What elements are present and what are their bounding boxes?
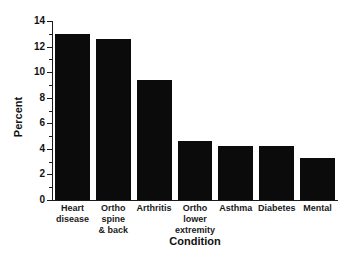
y-tick-label-wrap: 4 — [0, 144, 45, 154]
y-tick-label: 4 — [21, 144, 45, 154]
bar — [55, 34, 90, 200]
y-tick-label-wrap: 8 — [0, 93, 45, 103]
x-tick-label: Arthritis — [134, 203, 175, 214]
x-tick-label: Mental — [297, 203, 338, 214]
x-tick-label-line: Arthritis — [134, 203, 175, 214]
y-tick-label-wrap: 6 — [0, 118, 45, 128]
bar-chart: Percent 02468101214 HeartdiseaseOrthospi… — [0, 0, 352, 260]
y-tick-label: 14 — [21, 16, 45, 26]
y-tick-label-wrap: 0 — [0, 195, 45, 205]
y-tick-label: 0 — [21, 195, 45, 205]
bar — [218, 146, 253, 200]
x-tick-label-line: Heart — [52, 203, 93, 214]
bar — [178, 141, 213, 200]
x-tick-label-line: Diabetes — [256, 203, 297, 214]
x-tick-label: Heartdisease — [52, 203, 93, 225]
x-tick-label: Diabetes — [256, 203, 297, 214]
y-tick-label: 8 — [21, 93, 45, 103]
x-axis-line — [52, 200, 338, 201]
y-tick-label-wrap: 12 — [0, 42, 45, 52]
bar — [96, 39, 131, 200]
y-tick-label: 10 — [21, 67, 45, 77]
x-tick-label-line: Ortho — [175, 203, 216, 214]
plot-area — [52, 21, 338, 200]
x-tick-label: Ortholowerextremity — [175, 203, 216, 236]
y-tick-major — [47, 200, 52, 201]
x-tick-label-line: Mental — [297, 203, 338, 214]
x-tick-label-line: spine — [93, 214, 134, 225]
x-tick-label-line: Ortho — [93, 203, 134, 214]
y-tick-label: 12 — [21, 42, 45, 52]
x-tick-label-line: lower — [175, 214, 216, 225]
y-tick-label-wrap: 10 — [0, 67, 45, 77]
x-tick-label-line: disease — [52, 214, 93, 225]
y-tick-label-wrap: 14 — [0, 16, 45, 26]
bar — [300, 158, 335, 200]
x-axis-title: Condition — [52, 235, 338, 248]
y-tick-label-wrap: 2 — [0, 169, 45, 179]
x-tick-label-line: Asthma — [215, 203, 256, 214]
x-tick-label: Orthospine& back — [93, 203, 134, 236]
bar — [259, 146, 294, 200]
y-tick-label: 2 — [21, 169, 45, 179]
y-tick-label: 6 — [21, 118, 45, 128]
x-tick-label: Asthma — [215, 203, 256, 214]
bar — [137, 80, 172, 200]
